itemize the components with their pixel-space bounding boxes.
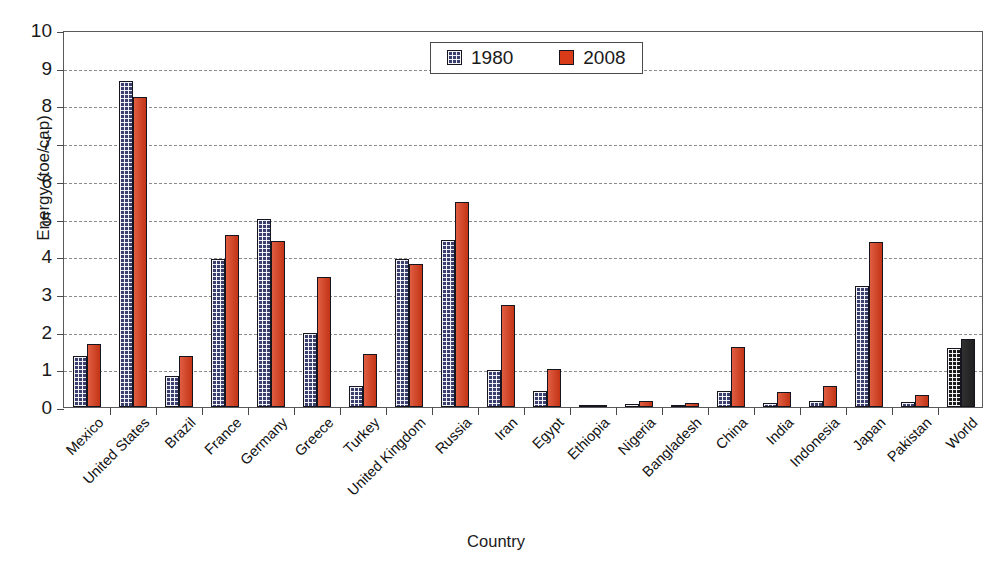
legend-item-2008: 2008 bbox=[559, 48, 625, 67]
legend-item-1980: 1980 bbox=[447, 48, 513, 67]
bar-1980 bbox=[533, 391, 547, 407]
y-tick-mark bbox=[57, 107, 64, 108]
x-tick-mark bbox=[110, 407, 111, 415]
x-axis-label: Nigeria bbox=[616, 415, 659, 458]
bar-2008 bbox=[501, 305, 515, 407]
x-tick-mark bbox=[340, 407, 341, 415]
x-tick-mark bbox=[708, 407, 709, 415]
y-tick-label: 10 bbox=[18, 21, 52, 40]
x-tick-mark bbox=[432, 407, 433, 415]
x-axis-label: China bbox=[713, 415, 750, 452]
x-tick-mark bbox=[202, 407, 203, 415]
y-tick-mark bbox=[57, 221, 64, 222]
bar-1980 bbox=[257, 219, 271, 408]
bar-1980 bbox=[119, 81, 133, 407]
y-tick-mark bbox=[57, 32, 64, 33]
y-tick-label: 8 bbox=[18, 96, 52, 115]
bar-1980 bbox=[717, 391, 731, 407]
x-tick-mark bbox=[294, 407, 295, 415]
x-tick-mark bbox=[524, 407, 525, 415]
y-tick-label: 1 bbox=[18, 360, 52, 379]
x-tick-mark bbox=[616, 407, 617, 415]
bar-1980 bbox=[441, 240, 455, 407]
bar-1980 bbox=[73, 356, 87, 407]
y-tick-label: 6 bbox=[18, 172, 52, 191]
bar-1980 bbox=[809, 401, 823, 407]
bar-2008 bbox=[133, 97, 147, 407]
bar-1980 bbox=[165, 376, 179, 407]
x-axis-label: World bbox=[943, 415, 980, 452]
bar-1980 bbox=[349, 386, 363, 407]
bar-2008 bbox=[87, 344, 101, 407]
bar-2008 bbox=[639, 401, 653, 407]
bar-2008 bbox=[823, 386, 837, 407]
x-tick-mark bbox=[156, 407, 157, 415]
bar-1980 bbox=[947, 348, 961, 407]
x-axis-title: Country bbox=[0, 532, 992, 551]
bar-2008 bbox=[455, 202, 469, 407]
legend: 1980 2008 bbox=[430, 42, 643, 74]
x-axis-label: Japan bbox=[850, 415, 888, 453]
x-axis-label: Germany bbox=[238, 415, 290, 467]
x-tick-mark bbox=[478, 407, 479, 415]
bar-1980 bbox=[211, 259, 225, 407]
x-tick-mark bbox=[938, 407, 939, 415]
bar-2008 bbox=[363, 354, 377, 407]
bar-1980 bbox=[625, 404, 639, 407]
x-axis-label: Ethiopia bbox=[565, 415, 612, 462]
y-tick-label: 7 bbox=[18, 134, 52, 153]
bar-2008 bbox=[961, 339, 975, 407]
y-tick-mark bbox=[57, 409, 64, 410]
x-axis-label: Turkey bbox=[341, 415, 382, 456]
bar-1980 bbox=[671, 405, 685, 407]
gridline bbox=[64, 296, 982, 297]
x-tick-mark bbox=[570, 407, 571, 415]
bar-1980 bbox=[487, 370, 501, 407]
bar-2008 bbox=[777, 392, 791, 407]
x-tick-mark bbox=[754, 407, 755, 415]
bar-1980 bbox=[395, 259, 409, 407]
x-axis-label: Mexico bbox=[64, 415, 107, 458]
gridline bbox=[64, 371, 982, 372]
y-tick-mark bbox=[57, 183, 64, 184]
gridline bbox=[64, 221, 982, 222]
x-tick-mark bbox=[386, 407, 387, 415]
legend-swatch-1980-icon bbox=[447, 50, 462, 65]
bar-1980 bbox=[303, 333, 317, 407]
y-tick-label: 3 bbox=[18, 285, 52, 304]
legend-label-2008: 2008 bbox=[583, 48, 625, 67]
bar-chart: Energy (toe/cap) 012345678910 1980 2008 … bbox=[0, 0, 992, 580]
x-tick-mark bbox=[892, 407, 893, 415]
x-axis-label: India bbox=[764, 415, 796, 447]
gridline bbox=[64, 107, 982, 108]
y-tick-mark bbox=[57, 296, 64, 297]
gridline bbox=[64, 258, 982, 259]
x-tick-mark bbox=[800, 407, 801, 415]
bar-1980 bbox=[579, 405, 593, 407]
plot-area bbox=[63, 31, 983, 408]
y-tick-mark bbox=[57, 70, 64, 71]
x-axis-label: Egypt bbox=[530, 415, 566, 451]
y-tick-label: 0 bbox=[18, 398, 52, 417]
bar-2008 bbox=[225, 235, 239, 407]
legend-label-1980: 1980 bbox=[471, 48, 513, 67]
bar-2008 bbox=[317, 277, 331, 407]
bar-1980 bbox=[855, 286, 869, 407]
bar-2008 bbox=[593, 405, 607, 407]
y-tick-label: 5 bbox=[18, 210, 52, 229]
y-tick-label: 2 bbox=[18, 323, 52, 342]
y-tick-mark bbox=[57, 371, 64, 372]
y-tick-label: 4 bbox=[18, 247, 52, 266]
x-axis-label: Greece bbox=[292, 415, 336, 459]
x-axis-label: Indonesia bbox=[788, 415, 843, 470]
x-axis-label: Brazil bbox=[162, 415, 198, 451]
bar-2008 bbox=[179, 356, 193, 407]
bar-2008 bbox=[547, 369, 561, 407]
gridline bbox=[64, 145, 982, 146]
x-axis-label: Russia bbox=[433, 415, 475, 457]
y-tick-label: 9 bbox=[18, 59, 52, 78]
bar-1980 bbox=[901, 402, 915, 407]
bar-2008 bbox=[685, 403, 699, 407]
gridline bbox=[64, 334, 982, 335]
bar-2008 bbox=[915, 395, 929, 407]
